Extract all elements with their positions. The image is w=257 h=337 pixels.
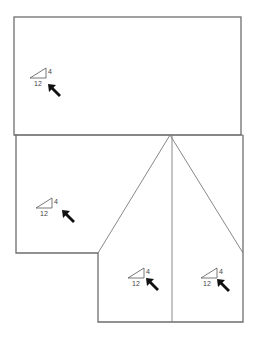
pitch-rise: 4 [54,198,58,205]
roof-plan-diagram: 4 12 4 12 4 12 4 12 [0,0,257,337]
pitch-rise: 4 [219,268,223,275]
top-roof-section [14,17,241,135]
slope-arrow-icon [48,84,61,97]
slope-arrow-icon [217,279,230,292]
right-hip-line [170,135,243,253]
pitch-symbol-top-face: 4 12 [30,68,61,97]
lower-roof-outline [16,135,243,322]
pitch-symbol-lower-middle-face: 4 12 [128,268,159,291]
pitch-symbol-left-face: 4 12 [36,198,75,223]
pitch-run: 12 [203,280,211,287]
pitch-rise: 4 [146,268,150,275]
left-hip-line [98,135,170,253]
pitch-rise: 4 [48,68,52,75]
pitch-symbol-lower-right-face: 4 12 [201,268,230,292]
pitch-run: 12 [132,280,140,287]
pitch-run: 12 [34,80,42,87]
pitch-run: 12 [40,210,48,217]
slope-arrow-icon [146,278,159,291]
slope-arrow-icon [62,210,75,223]
